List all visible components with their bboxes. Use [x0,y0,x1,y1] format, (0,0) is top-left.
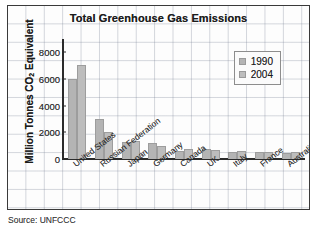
legend-item: 2004 [239,68,273,81]
y-tick-label: 8000 [39,47,60,58]
x-axis-category-labels: United StatesRussian FederationJapanGerm… [64,161,304,210]
bar-group [197,39,224,159]
y-tick-mark [62,132,66,133]
legend-label: 2004 [251,69,273,80]
y-axis-tick-labels: 02000400060008000 [8,6,60,209]
legend-swatch-icon [239,58,246,65]
y-tick-mark [62,105,66,106]
bar-1990 [68,79,77,159]
chart-figure: Total Greenhouse Gas Emissions Million T… [7,5,310,210]
y-tick-label: 2000 [39,127,60,138]
y-tick-mark [62,159,66,160]
y-tick-mark [62,78,66,79]
y-tick-label: 6000 [39,73,60,84]
y-tick-label: 0 [55,154,60,165]
bar-2004 [77,65,86,159]
legend-label: 1990 [251,56,273,67]
y-tick-mark [62,52,66,53]
legend-item: 1990 [239,55,273,68]
source-caption: Source: UNFCCC [8,215,76,225]
y-tick-label: 4000 [39,100,60,111]
legend-swatch-icon [239,71,246,78]
bar-group [277,39,304,159]
bar-group [144,39,171,159]
chart-legend: 19902004 [234,51,281,85]
bar-group [64,39,91,159]
